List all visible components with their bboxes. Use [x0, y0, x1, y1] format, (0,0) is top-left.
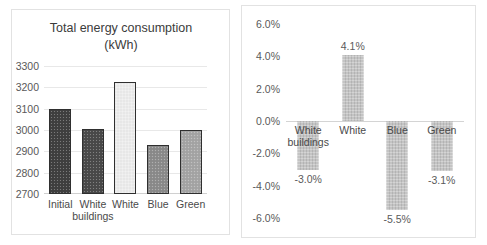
left-chart-y-tick-label: 3200: [16, 81, 39, 93]
right-chart-y-tick-label: -6.0%: [253, 212, 280, 224]
left-chart-bar-group[interactable]: Blue: [142, 66, 175, 194]
right-chart-bar-group[interactable]: -3.1%Green: [420, 24, 465, 218]
right-chart-bar[interactable]: [342, 55, 363, 121]
left-chart-y-tick-label: 3300: [16, 60, 39, 72]
right-chart-x-tick-label: Green: [415, 124, 469, 136]
right-chart-y-tick-label: 2.0%: [256, 83, 280, 95]
right-chart-bar-group[interactable]: -3.0%Whitebuildings: [286, 24, 331, 218]
left-chart-y-tick-label: 3000: [16, 124, 39, 136]
right-chart-data-label: -3.0%: [295, 173, 322, 185]
left-chart-bar-group[interactable]: Green: [174, 66, 207, 194]
right-chart-y-tick-label: -2.0%: [253, 147, 280, 159]
left-chart-x-tick-label-line: buildings: [70, 210, 116, 222]
left-chart-title-line2: (kWh): [26, 37, 216, 54]
left-chart-y-tick-label: 2800: [16, 167, 39, 179]
right-chart-data-label: -3.1%: [428, 174, 455, 186]
left-chart-y-tick-label: 3100: [16, 103, 39, 115]
left-chart-y-tick-label: 2900: [16, 145, 39, 157]
left-chart-bar-group[interactable]: Whitebuildings: [77, 66, 110, 194]
left-chart-y-tick-label: 2700: [16, 188, 39, 200]
left-chart-bar[interactable]: [180, 130, 202, 194]
right-chart-bar-group[interactable]: -5.5%Blue: [375, 24, 420, 218]
right-chart-y-tick-label: -4.0%: [253, 180, 280, 192]
left-chart-bar-group[interactable]: Initial: [44, 66, 77, 194]
left-chart-bar[interactable]: [49, 109, 71, 194]
right-chart-bar-group[interactable]: 4.1%White: [331, 24, 376, 218]
right-chart-y-tick-label: 6.0%: [256, 18, 280, 30]
left-chart-x-tick-label: Green: [168, 198, 214, 210]
left-chart-bar[interactable]: [82, 129, 104, 194]
right-chart-y-tick-label: 4.0%: [256, 50, 280, 62]
left-chart-title-line1: Total energy consumption: [50, 21, 192, 35]
right-chart-plot-area: 6.0%4.0%2.0%0.0%-2.0%-4.0%-6.0%-3.0%Whit…: [286, 24, 464, 218]
left-chart-bar[interactable]: [114, 82, 136, 194]
left-chart-x-tick-label-line: Green: [168, 198, 214, 210]
left-chart-bar-group[interactable]: White: [109, 66, 142, 194]
right-chart-x-tick-label-line: buildings: [281, 136, 335, 148]
right-chart-data-label: 4.1%: [341, 40, 365, 52]
chart-figure: Total energy consumption (kWh) 270028002…: [0, 0, 487, 245]
right-chart-y-tick-label: 0.0%: [256, 115, 280, 127]
left-chart-plot-area: 2700280029003000310032003300InitialWhite…: [44, 66, 207, 194]
right-chart-data-label: -5.5%: [384, 213, 411, 225]
left-chart-title: Total energy consumption (kWh): [26, 20, 216, 54]
left-chart-bar[interactable]: [147, 145, 169, 194]
right-chart-x-tick-label-line: Green: [415, 124, 469, 136]
